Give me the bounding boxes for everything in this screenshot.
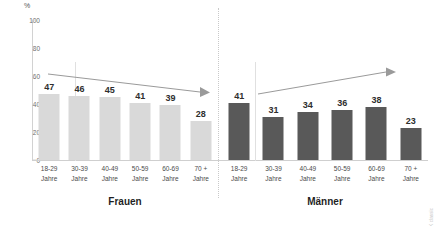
bar-value-label: 31 — [268, 105, 278, 115]
bar-value-label: 41 — [135, 91, 145, 101]
bar-value-label: 38 — [371, 95, 381, 105]
bar-value-label: 46 — [74, 84, 84, 94]
bar-maenner-30-39[interactable] — [263, 117, 284, 160]
bar-frauen-30-39[interactable] — [69, 96, 90, 160]
category-labels-frauen: 18-29Jahre30-39Jahre40-49Jahre50-59Jahre… — [34, 164, 216, 194]
bar-frauen-18-29[interactable] — [39, 94, 60, 160]
bar-maenner-50-59[interactable] — [332, 110, 353, 160]
bar-frauen-50-59[interactable] — [130, 103, 151, 160]
bar-maenner-70[interactable] — [400, 128, 421, 160]
bar-value-label: 23 — [406, 116, 416, 126]
bar-slot: 34 — [291, 0, 325, 161]
bar-slot: 47 — [34, 0, 64, 161]
credit-text: © IKK classic — [429, 208, 434, 226]
y-axis-line — [32, 20, 33, 161]
bar-slot: 46 — [64, 0, 94, 161]
bar-maenner-18-29[interactable] — [229, 103, 250, 160]
bar-value-label: 36 — [337, 98, 347, 108]
panel-maenner: 413134363823 18-29Jahre30-39Jahre40-49Ja… — [222, 0, 428, 226]
bar-value-label: 47 — [44, 82, 54, 92]
group-title-frauen: Frauen — [34, 196, 216, 207]
bar-slot: 28 — [186, 0, 216, 161]
bar-slot: 31 — [256, 0, 290, 161]
bar-frauen-60-69[interactable] — [160, 105, 181, 160]
bar-maenner-40-49[interactable] — [297, 112, 318, 160]
bar-value-label: 34 — [303, 100, 313, 110]
bar-group-frauen: 474645413928 — [34, 0, 216, 161]
bar-value-label: 28 — [196, 109, 206, 119]
bar-slot: 41 — [222, 0, 256, 161]
category-range: 70 + — [391, 164, 431, 174]
panel-frauen: 474645413928 18-29Jahre30-39Jahre40-49Ja… — [34, 0, 216, 226]
category-label: 70 +Jahre — [181, 164, 221, 184]
bar-slot: 38 — [359, 0, 393, 161]
bar-value-label: 39 — [165, 93, 175, 103]
bar-slot: 23 — [394, 0, 428, 161]
group-title-maenner: Männer — [222, 196, 428, 207]
bar-group-maenner: 413134363823 — [222, 0, 428, 161]
chart-container: % 100806040200 474645413928 18-29Jahre30… — [0, 0, 436, 226]
bar-slot: 39 — [155, 0, 185, 161]
bar-maenner-60-69[interactable] — [366, 107, 387, 160]
bar-slot: 45 — [95, 0, 125, 161]
bar-frauen-40-49[interactable] — [99, 97, 120, 160]
bar-value-label: 41 — [234, 91, 244, 101]
y-axis-unit-label: % — [24, 2, 30, 9]
category-range: 70 + — [181, 164, 221, 174]
category-unit: Jahre — [391, 174, 431, 184]
bar-slot: 41 — [125, 0, 155, 161]
category-labels-maenner: 18-29Jahre30-39Jahre40-49Jahre50-59Jahre… — [222, 164, 428, 194]
bar-frauen-70[interactable] — [190, 121, 211, 160]
category-label: 70 +Jahre — [391, 164, 431, 184]
bar-slot: 36 — [325, 0, 359, 161]
bar-value-label: 45 — [105, 85, 115, 95]
category-unit: Jahre — [181, 174, 221, 184]
